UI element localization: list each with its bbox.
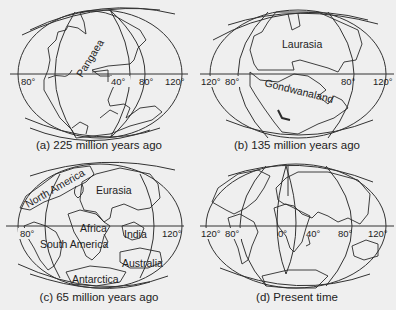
landmass-label-australia: Australia [122,257,163,269]
cretaceous-map: 80° 120° North America Eurasia Africa So… [0,152,198,292]
map-panel-135mya: 120° 80° 80° 120° Laurasia Gondwanaland … [198,0,396,155]
longitude-label: 80° [225,228,240,239]
landmass-label-africa: Africa [80,222,107,234]
landmass-label-india: India [124,228,147,240]
landmass-label-antarctica: Antarctica [72,273,119,285]
longitude-label: 120° [373,76,393,87]
landmass-label-gondwanaland: Gondwanaland [264,76,336,105]
meridian-line [238,12,268,138]
longitude-label: 80° [341,76,356,87]
landmass-label-laurasia: Laurasia [282,38,322,50]
caption-a: (a) 225 million years ago [0,139,198,151]
landmass-label-north-america: North America [23,166,87,210]
landmass-label-pangaea: Pangaea [74,37,107,79]
laurasia-gondwana-map: 120° 80° 80° 120° Laurasia Gondwanaland [198,0,396,140]
longitude-label: 40° [111,76,126,87]
coastline [72,122,88,134]
longitude-label: 120° [165,76,185,87]
landmass-label-south-america: South America [40,238,108,250]
present-world-map: 120° 80° 0° 40° 80° 120° [198,152,396,292]
graticule-arc [30,8,175,30]
longitude-label: 120° [162,228,182,239]
coastline [100,110,118,118]
longitude-label: 80° [338,228,353,239]
caption-c: (c) 65 million years ago [0,291,198,303]
landmass-label-eurasia: Eurasia [96,184,132,196]
graticule-arc [228,165,373,182]
caption-d: (d) Present time [198,291,396,303]
map-panel-present: 120° 80° 0° 40° 80° 120° (d) Present tim… [198,152,396,307]
longitude-label: 80° [20,228,35,239]
graticule-arc [22,8,160,35]
longitude-label: 120° [201,228,221,239]
australia-landmass [352,240,378,260]
longitude-label: 80° [225,76,240,87]
coastline [288,14,300,30]
longitude-label: 120° [368,228,388,239]
caption-b: (b) 135 million years ago [198,139,396,151]
longitude-label: 120° [201,76,221,87]
coastline [278,110,290,120]
longitude-label: 80° [139,76,154,87]
graticule-arc [25,118,160,137]
longitude-label: 40° [306,228,321,239]
map-panel-65mya: 80° 120° North America Eurasia Africa So… [0,152,198,307]
map-panel-225mya: 80° 40° 80° 120° Pangaea (a) 225 million… [0,0,198,155]
africa-landmass [68,210,110,260]
longitude-label: 80° [21,76,36,87]
pangaea-landmass [44,11,162,138]
longitude-label: 0° [278,228,287,239]
pangaea-map: 80° 40° 80° 120° Pangaea [0,0,198,140]
